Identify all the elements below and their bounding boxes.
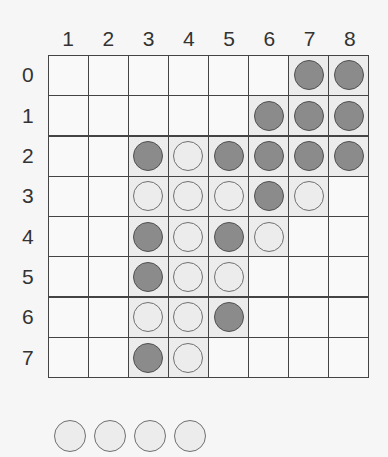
dark-piece-icon[interactable] bbox=[254, 101, 284, 131]
board-cell-r6-c6[interactable] bbox=[249, 298, 288, 337]
board-cell-r0-c2[interactable] bbox=[89, 56, 128, 95]
row-label: 1 bbox=[22, 95, 48, 135]
dark-piece-icon[interactable] bbox=[334, 60, 364, 90]
light-piece-icon[interactable] bbox=[173, 181, 203, 211]
board-cell-r6-c3[interactable] bbox=[129, 298, 168, 337]
board-cell-r7-c6[interactable] bbox=[249, 338, 288, 377]
board-cell-r2-c2[interactable] bbox=[89, 137, 128, 176]
board-cell-r4-c4[interactable] bbox=[169, 217, 208, 256]
board-cell-r0-c7[interactable] bbox=[289, 56, 328, 95]
board-cell-r3-c8[interactable] bbox=[329, 177, 368, 216]
board-cell-r4-c2[interactable] bbox=[89, 217, 128, 256]
board-cell-r4-c6[interactable] bbox=[249, 217, 288, 256]
dark-piece-icon[interactable] bbox=[254, 141, 284, 171]
dark-piece-icon[interactable] bbox=[133, 262, 163, 292]
board-cell-r7-c7[interactable] bbox=[289, 338, 328, 377]
board-cell-r5-c7[interactable] bbox=[289, 257, 328, 296]
light-piece-icon[interactable] bbox=[133, 302, 163, 332]
board-cell-r4-c7[interactable] bbox=[289, 217, 328, 256]
board-cell-r6-c8[interactable] bbox=[329, 298, 368, 337]
board-cell-r3-c6[interactable] bbox=[249, 177, 288, 216]
board-cell-r2-c6[interactable] bbox=[249, 137, 288, 176]
board-cell-r1-c6[interactable] bbox=[249, 96, 288, 135]
board-cell-r1-c5[interactable] bbox=[209, 96, 248, 135]
board-cell-r5-c6[interactable] bbox=[249, 257, 288, 296]
board-cell-r0-c4[interactable] bbox=[169, 56, 208, 95]
board-cell-r1-c1[interactable] bbox=[49, 96, 88, 135]
board-cell-r0-c6[interactable] bbox=[249, 56, 288, 95]
board-cell-r5-c8[interactable] bbox=[329, 257, 368, 296]
board-cell-r5-c1[interactable] bbox=[49, 257, 88, 296]
board-cell-r7-c5[interactable] bbox=[209, 338, 248, 377]
board-cell-r3-c7[interactable] bbox=[289, 177, 328, 216]
board-cell-r4-c8[interactable] bbox=[329, 217, 368, 256]
board-cell-r0-c3[interactable] bbox=[129, 56, 168, 95]
board-cell-r2-c7[interactable] bbox=[289, 137, 328, 176]
board-cell-r3-c4[interactable] bbox=[169, 177, 208, 216]
board-cell-r0-c8[interactable] bbox=[329, 56, 368, 95]
board-cell-r0-c1[interactable] bbox=[49, 56, 88, 95]
board-cell-r7-c1[interactable] bbox=[49, 338, 88, 377]
board-cell-r2-c4[interactable] bbox=[169, 137, 208, 176]
board-cell-r2-c3[interactable] bbox=[129, 137, 168, 176]
board-cell-r3-c2[interactable] bbox=[89, 177, 128, 216]
board-cell-r6-c5[interactable] bbox=[209, 298, 248, 337]
board-cell-r5-c3[interactable] bbox=[129, 257, 168, 296]
light-piece-icon[interactable] bbox=[214, 181, 244, 211]
board-cell-r3-c1[interactable] bbox=[49, 177, 88, 216]
board-cell-r5-c4[interactable] bbox=[169, 257, 208, 296]
board-cell-r1-c3[interactable] bbox=[129, 96, 168, 135]
board-cell-r3-c5[interactable] bbox=[209, 177, 248, 216]
board-cell-r0-c5[interactable] bbox=[209, 56, 248, 95]
board-cell-r7-c2[interactable] bbox=[89, 338, 128, 377]
dark-piece-icon[interactable] bbox=[214, 141, 244, 171]
board-cell-r2-c5[interactable] bbox=[209, 137, 248, 176]
reserve-light-piece-icon[interactable] bbox=[94, 420, 126, 452]
dark-piece-icon[interactable] bbox=[214, 302, 244, 332]
dark-piece-icon[interactable] bbox=[334, 101, 364, 131]
light-piece-icon[interactable] bbox=[173, 222, 203, 252]
row-label: 4 bbox=[22, 217, 48, 257]
board-cell-r1-c8[interactable] bbox=[329, 96, 368, 135]
dark-piece-icon[interactable] bbox=[214, 222, 244, 252]
light-piece-icon[interactable] bbox=[173, 343, 203, 373]
dark-piece-icon[interactable] bbox=[133, 343, 163, 373]
light-piece-icon[interactable] bbox=[214, 262, 244, 292]
reserve-light-piece-icon[interactable] bbox=[54, 420, 86, 452]
light-piece-icon[interactable] bbox=[254, 222, 284, 252]
dark-piece-icon[interactable] bbox=[254, 181, 284, 211]
board-cell-r6-c7[interactable] bbox=[289, 298, 328, 337]
board-cell-r7-c8[interactable] bbox=[329, 338, 368, 377]
reserve-light-piece-icon[interactable] bbox=[134, 420, 166, 452]
light-piece-icon[interactable] bbox=[173, 262, 203, 292]
light-piece-icon[interactable] bbox=[173, 141, 203, 171]
board-cell-r4-c5[interactable] bbox=[209, 217, 248, 256]
column-label: 2 bbox=[88, 24, 128, 54]
board-cell-r2-c1[interactable] bbox=[49, 137, 88, 176]
column-label: 1 bbox=[48, 24, 88, 54]
light-piece-icon[interactable] bbox=[294, 181, 324, 211]
board-cell-r7-c4[interactable] bbox=[169, 338, 208, 377]
reserve-light-piece-icon[interactable] bbox=[174, 420, 206, 452]
board-cell-r6-c4[interactable] bbox=[169, 298, 208, 337]
dark-piece-icon[interactable] bbox=[133, 222, 163, 252]
board-cell-r3-c3[interactable] bbox=[129, 177, 168, 216]
board-cell-r6-c2[interactable] bbox=[89, 298, 128, 337]
dark-piece-icon[interactable] bbox=[133, 141, 163, 171]
board-cell-r4-c1[interactable] bbox=[49, 217, 88, 256]
board-cell-r7-c3[interactable] bbox=[129, 338, 168, 377]
dark-piece-icon[interactable] bbox=[294, 101, 324, 131]
light-piece-icon[interactable] bbox=[173, 302, 203, 332]
board-cell-r6-c1[interactable] bbox=[49, 298, 88, 337]
dark-piece-icon[interactable] bbox=[294, 141, 324, 171]
light-piece-icon[interactable] bbox=[133, 181, 163, 211]
board-cell-r1-c2[interactable] bbox=[89, 96, 128, 135]
board-cell-r5-c2[interactable] bbox=[89, 257, 128, 296]
dark-piece-icon[interactable] bbox=[334, 141, 364, 171]
dark-piece-icon[interactable] bbox=[294, 60, 324, 90]
board-cell-r1-c7[interactable] bbox=[289, 96, 328, 135]
board-cell-r1-c4[interactable] bbox=[169, 96, 208, 135]
board-cell-r2-c8[interactable] bbox=[329, 137, 368, 176]
board-cell-r5-c5[interactable] bbox=[209, 257, 248, 296]
board-cell-r4-c3[interactable] bbox=[129, 217, 168, 256]
